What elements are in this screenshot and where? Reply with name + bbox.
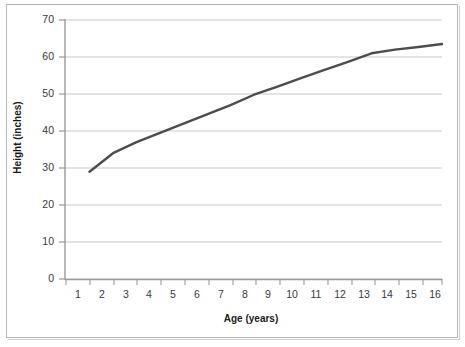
- y-axis-title: Height (inches): [12, 83, 23, 193]
- x-tick-label-6: 6: [186, 289, 208, 300]
- data-series-height: [90, 44, 443, 172]
- y-tick-label-30: 30: [26, 162, 54, 173]
- x-tick-label-13: 13: [353, 289, 375, 300]
- x-tick-label-7: 7: [210, 289, 232, 300]
- y-tick-label-0: 0: [26, 273, 54, 284]
- x-tick-label-12: 12: [329, 289, 351, 300]
- x-tick-label-2: 2: [91, 289, 113, 300]
- x-tick-label-9: 9: [257, 289, 279, 300]
- x-tick-label-1: 1: [67, 289, 89, 300]
- y-tick-label-50: 50: [26, 88, 54, 99]
- x-axis-title: Age (years): [65, 313, 437, 324]
- y-tick-label-60: 60: [26, 51, 54, 62]
- y-tick-label-10: 10: [26, 236, 54, 247]
- x-tick-label-14: 14: [376, 289, 398, 300]
- y-tick-label-40: 40: [26, 125, 54, 136]
- x-tick-label-8: 8: [234, 289, 256, 300]
- line-chart: 0 10 20 30 40 50 60 70 1 2 3 4 5 6 7 8 9…: [0, 0, 465, 347]
- y-tick-label-70: 70: [26, 14, 54, 25]
- y-axis-ticks: [59, 20, 65, 279]
- x-tick-label-16: 16: [424, 289, 446, 300]
- x-tick-label-10: 10: [281, 289, 303, 300]
- x-tick-label-11: 11: [305, 289, 327, 300]
- y-tick-label-20: 20: [26, 199, 54, 210]
- x-tick-label-4: 4: [138, 289, 160, 300]
- x-tick-label-3: 3: [115, 289, 137, 300]
- x-tick-label-5: 5: [162, 289, 184, 300]
- x-tick-label-15: 15: [400, 289, 422, 300]
- chart-screenshot: 0 10 20 30 40 50 60 70 1 2 3 4 5 6 7 8 9…: [0, 0, 465, 347]
